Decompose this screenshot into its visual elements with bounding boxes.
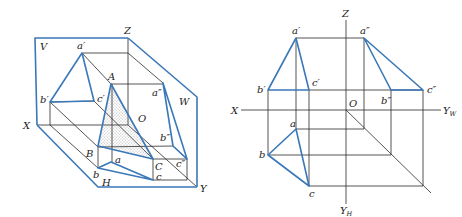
- label-H: H: [101, 177, 111, 188]
- label-b: b: [93, 169, 99, 180]
- label-c: c: [309, 188, 315, 199]
- label-a-dprime: a″: [360, 25, 370, 36]
- label-c-dprime: c″: [427, 84, 437, 95]
- label-a: a: [115, 154, 121, 165]
- label-YH-sub: H: [346, 210, 353, 217]
- axes: [241, 20, 441, 204]
- label-W: W: [179, 96, 190, 107]
- projection-diagram: V Z X Y O W H a′ b′ c′ A B C a b c a″ b″…: [0, 0, 462, 217]
- label-Y: Y: [200, 183, 208, 194]
- label-B: B: [85, 148, 93, 159]
- label-c-prime: c′: [312, 77, 321, 88]
- v-projection-triangle: [50, 53, 94, 102]
- label-c-prime: c′: [97, 93, 106, 104]
- pictorial-view: V Z X Y O W H a′ b′ c′ A B C a b c a″ b″…: [22, 25, 208, 194]
- label-Z: Z: [123, 25, 132, 36]
- projection-triangles: [268, 38, 423, 186]
- label-YW: YW: [443, 105, 458, 118]
- label-c-dprime: c″: [176, 158, 186, 169]
- label-b-prime: b′: [257, 84, 266, 95]
- side-view-triangle: [364, 38, 423, 90]
- label-a: a: [290, 118, 296, 129]
- label-c: c: [156, 171, 162, 182]
- w-projection-triangle: [163, 83, 187, 159]
- label-Z: Z: [341, 8, 350, 19]
- top-view-triangle: [268, 129, 309, 186]
- label-a-dprime: a″: [152, 87, 162, 98]
- label-O: O: [349, 98, 357, 109]
- projector-line: [128, 53, 163, 83]
- label-a-prime: a′: [292, 25, 301, 36]
- label-O: O: [138, 113, 146, 124]
- front-view-triangle: [268, 38, 309, 90]
- label-b-dprime: b″: [160, 132, 170, 143]
- label-A: A: [107, 71, 115, 82]
- label-YW-sub: W: [450, 110, 458, 118]
- label-YH: YH: [340, 205, 353, 217]
- label-b-prime: b′: [40, 94, 49, 105]
- diagonal-45-line: [346, 110, 431, 193]
- projection-lines: [268, 38, 423, 186]
- label-a-prime: a′: [77, 40, 86, 51]
- label-X: X: [22, 120, 31, 131]
- label-b: b: [259, 149, 265, 160]
- orthographic-view: Z X O YW YH a′ b′ c′ a″ b″ c″ a b c: [230, 8, 458, 217]
- label-V: V: [40, 41, 49, 52]
- label-X: X: [230, 105, 239, 116]
- label-b-dprime: b″: [381, 95, 391, 106]
- projector-line: [50, 102, 98, 147]
